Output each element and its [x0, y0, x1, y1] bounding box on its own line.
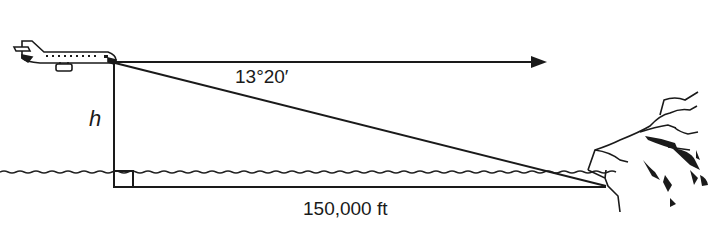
diagram-canvas: [0, 0, 724, 230]
line-of-sight: [115, 63, 606, 186]
arrow-head-icon: [531, 56, 547, 68]
angle-label: 13°20′: [235, 66, 288, 88]
height-label: h: [89, 106, 101, 132]
cliff-shading: [643, 136, 708, 207]
airplane-icon: [14, 41, 116, 71]
distance-label: 150,000 ft: [303, 198, 388, 220]
water-line: [0, 171, 616, 173]
